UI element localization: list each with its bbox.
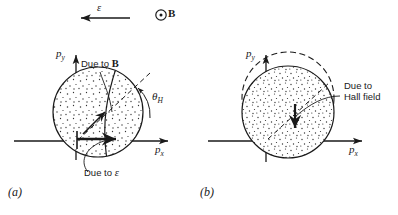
epsilon-field-label: ε xyxy=(97,2,101,14)
panel-b-caption: (b) xyxy=(200,186,214,200)
panel-b-px-axis-label: px xyxy=(349,143,358,159)
magnetic-field-label: B xyxy=(168,7,175,20)
panel-a-caption: (a) xyxy=(8,186,22,200)
panel-a-drawing xyxy=(14,55,168,172)
panel-a-due-to-b-label: Due to B xyxy=(81,58,119,70)
panel-b-py-axis-label: py xyxy=(246,47,255,63)
figure-drawing xyxy=(0,0,398,215)
panel-a-due-to-epsilon-label: Due to ε xyxy=(84,167,119,179)
panel-a-py-axis-label: py xyxy=(56,47,65,63)
panel-b-drawing xyxy=(208,52,362,162)
panel-a-px-axis-label: px xyxy=(155,143,164,159)
top-field-annotation xyxy=(81,10,166,20)
physics-figure: ε B py px Due to B Due to ε θH (a) py px… xyxy=(0,0,398,215)
panel-a-hall-angle-label: θH xyxy=(152,90,163,106)
panel-b-due-to-hall-field-label: Due to Hall field xyxy=(344,81,380,103)
